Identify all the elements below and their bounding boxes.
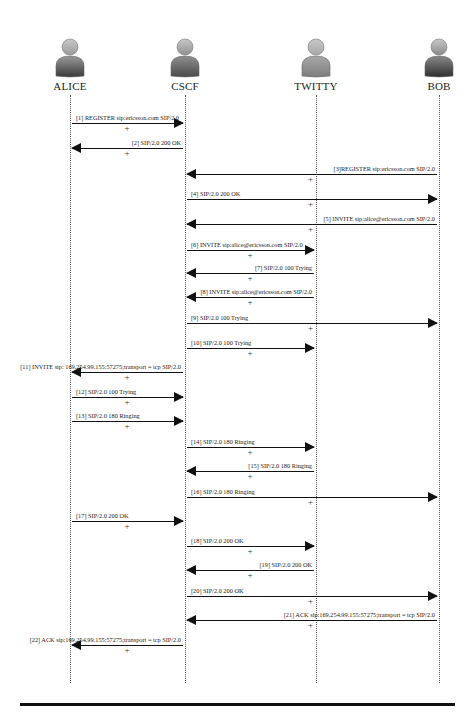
person-icon — [53, 38, 87, 78]
arrow-head-icon — [428, 318, 438, 328]
message-arrow-16: [16] SIP/2.0 180 Ringing+ — [187, 490, 437, 504]
arrow-head-icon — [305, 442, 315, 452]
arrow-head-icon — [186, 615, 196, 625]
message-arrow-4: [4] SIP/2.0 200 OK+ — [187, 192, 437, 206]
arrow-head-icon — [186, 219, 196, 229]
lifeline-cscf — [185, 95, 186, 683]
message-arrow-22: [22] ACK sip:169.254.99.155:57275;transp… — [72, 638, 183, 652]
message-label: [19] SIP/2.0 200 OK — [260, 561, 312, 568]
message-arrow-12: [12] SIP/2.0 100 Trying+ — [72, 390, 183, 404]
plus-marker-icon: + — [125, 421, 130, 431]
message-label: [5] INVITE sip:alice@ericsson.com SIP/2.… — [323, 215, 435, 222]
message-arrow-21: [21] ACK sip:169.254.99.155:57275;transp… — [187, 613, 437, 627]
message-arrow-15: [15] SIP/2.0 180 Ringing+ — [187, 464, 314, 478]
message-arrow-3: [3]REGISTER sip:ericsson.com SIP/2.0+ — [187, 167, 437, 181]
plus-marker-icon: + — [248, 447, 253, 457]
plus-marker-icon: + — [308, 199, 313, 209]
message-arrow-9: [9] SIP/2.0 100 Trying+ — [187, 316, 437, 330]
arrow-head-icon — [186, 466, 196, 476]
message-arrow-20: [20] SIP/2.0 200 OK+ — [187, 589, 437, 603]
message-arrow-19: [19] SIP/2.0 200 OK+ — [187, 563, 314, 577]
actor-twitty: TWITTY — [276, 38, 356, 92]
message-label: [18] SIP/2.0 200 OK — [191, 537, 243, 544]
actor-label: BOB — [399, 80, 473, 92]
plus-marker-icon: + — [125, 123, 130, 133]
actor-label: TWITTY — [276, 80, 356, 92]
message-arrow-10: [10] SIP/2.0 100 Trying+ — [187, 341, 314, 355]
arrow-head-icon — [186, 169, 196, 179]
plus-marker-icon: + — [248, 348, 253, 358]
actor-label: CSCF — [145, 80, 225, 92]
message-label: [22] ACK sip:169.254.99.155:57275;transp… — [30, 636, 181, 643]
message-label: [10] SIP/2.0 100 Trying — [191, 339, 251, 346]
message-arrow-7: [7] SIP/2.0 100 Trying+ — [187, 266, 314, 280]
arrow-head-icon — [305, 343, 315, 353]
message-arrow-2: [2] SIP/2.0 200 OK+ — [72, 141, 183, 155]
message-arrow-5: [5] INVITE sip:alice@ericsson.com SIP/2.… — [187, 217, 437, 231]
actor-label: ALICE — [30, 80, 110, 92]
actor-alice: ALICE — [30, 38, 110, 92]
message-arrow-6: [6] INVITE sip:alice@ericsson.com SIP/2.… — [187, 243, 314, 257]
message-label: [12] SIP/2.0 100 Trying — [76, 388, 136, 395]
plus-marker-icon: + — [248, 250, 253, 260]
arrow-head-icon — [174, 516, 184, 526]
message-arrow-11: [11] INVITE sip: 169.254.99.155:57275;tr… — [72, 365, 183, 379]
arrow-head-icon — [428, 194, 438, 204]
message-label: [16] SIP/2.0 180 Ringing — [191, 488, 255, 495]
plus-marker-icon: + — [248, 297, 253, 307]
lifeline-bob — [439, 95, 440, 683]
arrow-head-icon — [174, 416, 184, 426]
actor-cscf: CSCF — [145, 38, 225, 92]
message-arrow-14: [14] SIP/2.0 180 Ringing+ — [187, 440, 314, 454]
plus-marker-icon: + — [125, 521, 130, 531]
message-label: [15] SIP/2.0 180 Ringing — [248, 462, 312, 469]
arrow-head-icon — [428, 492, 438, 502]
message-label: [8] INVITE sip:alice@ericsson.com SIP/2.… — [200, 288, 312, 295]
plus-marker-icon: + — [248, 570, 253, 580]
message-label: [17] SIP/2.0 200 OK — [76, 512, 128, 519]
person-icon — [168, 38, 202, 78]
plus-marker-icon: + — [125, 372, 130, 382]
message-label: [4] SIP/2.0 200 OK — [191, 190, 240, 197]
caption-rule — [20, 703, 455, 706]
message-arrow-18: [18] SIP/2.0 200 OK+ — [187, 539, 314, 553]
message-label: [2] SIP/2.0 200 OK — [132, 139, 181, 146]
plus-marker-icon: + — [308, 596, 313, 606]
message-label: [7] SIP/2.0 100 Trying — [255, 264, 312, 271]
person-icon — [299, 38, 333, 78]
message-label: [3]REGISTER sip:ericsson.com SIP/2.0 — [334, 165, 435, 172]
arrow-head-icon — [428, 591, 438, 601]
message-arrow-1: [1] REGISTER sip:ericsson.com SIP/2.0+ — [72, 116, 183, 130]
plus-marker-icon: + — [248, 546, 253, 556]
message-label: [6] INVITE sip:alice@ericsson.com SIP/2.… — [191, 241, 303, 248]
message-label: [9] SIP/2.0 100 Trying — [191, 314, 248, 321]
plus-marker-icon: + — [248, 471, 253, 481]
arrow-head-icon — [305, 541, 315, 551]
plus-marker-icon: + — [125, 148, 130, 158]
plus-marker-icon: + — [125, 645, 130, 655]
plus-marker-icon: + — [125, 397, 130, 407]
plus-marker-icon: + — [308, 174, 313, 184]
arrow-head-icon — [71, 143, 81, 153]
arrow-head-icon — [174, 392, 184, 402]
arrow-head-icon — [186, 268, 196, 278]
plus-marker-icon: + — [308, 620, 313, 630]
plus-marker-icon: + — [308, 323, 313, 333]
arrow-head-icon — [186, 292, 196, 302]
arrow-head-icon — [305, 245, 315, 255]
message-arrow-8: [8] INVITE sip:alice@ericsson.com SIP/2.… — [187, 290, 314, 304]
plus-marker-icon: + — [308, 224, 313, 234]
message-label: [13] SIP/2.0 180 Ringing — [76, 412, 140, 419]
message-label: [21] ACK sip:169.254.99.155:57275;transp… — [284, 611, 435, 618]
message-arrow-13: [13] SIP/2.0 180 Ringing+ — [72, 414, 183, 428]
message-label: [1] REGISTER sip:ericsson.com SIP/2.0 — [76, 114, 179, 121]
message-label: [14] SIP/2.0 180 Ringing — [191, 438, 255, 445]
message-label: [20] SIP/2.0 200 OK — [191, 587, 243, 594]
actor-bob: BOB — [399, 38, 473, 92]
message-label: [11] INVITE sip: 169.254.99.155:57275;tr… — [20, 363, 181, 370]
person-icon — [422, 38, 456, 78]
arrow-head-icon — [186, 565, 196, 575]
lifeline-alice — [70, 95, 71, 683]
plus-marker-icon: + — [308, 497, 313, 507]
plus-marker-icon: + — [248, 273, 253, 283]
